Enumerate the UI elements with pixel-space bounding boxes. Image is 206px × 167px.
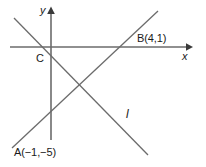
- point-label-a: A(−1,−5): [14, 146, 56, 158]
- y-axis-arrow-icon: [47, 7, 55, 15]
- point-label-b: B(4,1): [137, 32, 166, 44]
- y-axis: [47, 7, 55, 141]
- figure-canvas: [0, 0, 206, 167]
- y-axis-label: y: [40, 4, 45, 16]
- point-label-c: C: [36, 52, 44, 64]
- coordinate-plane-figure: y x C B(4,1) A(−1,−5) l: [0, 0, 206, 167]
- line-label-l: l: [126, 108, 129, 120]
- x-axis-label: x: [182, 50, 187, 62]
- x-axis: [10, 43, 193, 51]
